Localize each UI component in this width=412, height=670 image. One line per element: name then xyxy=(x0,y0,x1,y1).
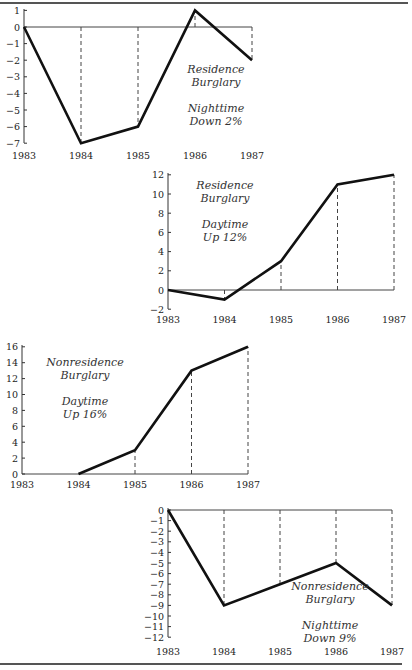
y-tick-label: −9 xyxy=(150,600,164,611)
x-tick-label: 1984 xyxy=(69,150,93,161)
y-tick-label: 2 xyxy=(12,453,18,464)
chart-residence-nighttime: 10−1−2−3−4−5−6−719831984198519861987Resi… xyxy=(6,5,264,161)
y-tick-label: 0 xyxy=(14,22,20,33)
x-tick-label: 1983 xyxy=(10,479,34,490)
x-tick-label: 1986 xyxy=(179,479,203,490)
y-tick-label: −3 xyxy=(6,71,20,82)
x-tick-label: 1986 xyxy=(324,646,348,657)
chart-annotation: Down 2% xyxy=(189,115,243,128)
y-tick-label: 6 xyxy=(12,421,18,432)
chart-nonresidence-daytime: 161412108642019831984198519861987Nonresi… xyxy=(6,341,260,490)
y-tick-label: 12 xyxy=(152,169,164,180)
y-tick-label: −2 xyxy=(150,526,164,537)
y-tick-label: −2 xyxy=(6,55,20,66)
y-tick-label: −1 xyxy=(150,515,164,526)
chart-annotation: Burglary xyxy=(190,76,241,89)
chart-annotation: Nighttime xyxy=(301,619,359,632)
y-tick-label: 4 xyxy=(12,437,18,448)
y-tick-label: 0 xyxy=(158,285,164,296)
chart-annotation: Residence xyxy=(195,179,254,192)
x-tick-label: 1986 xyxy=(325,314,349,325)
x-tick-label: 1987 xyxy=(382,314,406,325)
y-tick-label: 14 xyxy=(6,357,18,368)
y-tick-label: 1 xyxy=(14,5,20,16)
x-tick-label: 1984 xyxy=(66,479,90,490)
y-tick-label: −7 xyxy=(150,579,164,590)
chart-annotation: Nonresidence xyxy=(290,580,369,593)
y-tick-label: −11 xyxy=(144,621,164,632)
chart-annotation: Burglary xyxy=(59,369,110,382)
y-tick-label: −4 xyxy=(6,88,20,99)
x-tick-label: 1985 xyxy=(123,479,147,490)
y-tick-label: −5 xyxy=(6,105,20,116)
y-tick-label: −6 xyxy=(150,568,164,579)
y-tick-label: −4 xyxy=(150,547,164,558)
y-tick-label: 6 xyxy=(158,227,164,238)
x-tick-label: 1984 xyxy=(212,314,236,325)
y-tick-label: 8 xyxy=(158,208,164,219)
y-tick-label: 10 xyxy=(152,189,164,200)
y-tick-label: −3 xyxy=(150,536,164,547)
x-tick-label: 1983 xyxy=(156,314,180,325)
y-tick-label: −6 xyxy=(6,121,20,132)
x-tick-label: 1983 xyxy=(156,646,180,657)
chart-annotation: Burglary xyxy=(304,593,355,606)
x-tick-label: 1984 xyxy=(212,646,236,657)
y-tick-label: −8 xyxy=(150,589,164,600)
y-tick-label: 0 xyxy=(158,505,164,516)
chart-annotation: Up 16% xyxy=(63,408,107,421)
charts-canvas: 10−1−2−3−4−5−6−719831984198519861987Resi… xyxy=(0,0,412,670)
chart-nonresidence-nighttime: 0−1−2−3−4−5−6−7−8−9−10−11−12198319841985… xyxy=(144,505,404,658)
y-tick-label: −10 xyxy=(144,611,164,622)
y-tick-label: −5 xyxy=(150,558,164,569)
chart-residence-daytime: 121086420−219831984198519861987Residence… xyxy=(150,169,406,325)
x-tick-label: 1985 xyxy=(126,150,150,161)
x-tick-label: 1987 xyxy=(236,479,260,490)
chart-annotation: Up 12% xyxy=(203,231,247,244)
y-tick-label: 4 xyxy=(158,246,164,257)
y-tick-label: 16 xyxy=(6,341,18,352)
chart-annotation: Down 9% xyxy=(303,632,357,645)
chart-annotation: Nonresidence xyxy=(45,356,124,369)
chart-annotation: Daytime xyxy=(61,395,109,408)
y-tick-label: 2 xyxy=(158,265,164,276)
y-tick-label: 12 xyxy=(6,373,18,384)
chart-annotation: Daytime xyxy=(201,218,249,231)
x-tick-label: 1985 xyxy=(268,646,292,657)
x-tick-label: 1983 xyxy=(12,150,36,161)
x-tick-label: 1987 xyxy=(380,646,404,657)
y-tick-label: 10 xyxy=(6,389,18,400)
chart-annotation: Nighttime xyxy=(187,102,245,115)
y-tick-label: −12 xyxy=(144,632,164,643)
y-tick-label: −7 xyxy=(6,138,20,149)
y-tick-label: 8 xyxy=(12,405,18,416)
chart-annotation: Residence xyxy=(186,63,245,76)
y-tick-label: −1 xyxy=(6,38,20,49)
x-tick-label: 1986 xyxy=(183,150,207,161)
x-tick-label: 1985 xyxy=(269,314,293,325)
y-tick-label: 0 xyxy=(12,469,18,480)
chart-annotation: Burglary xyxy=(199,192,250,205)
x-tick-label: 1987 xyxy=(240,150,264,161)
